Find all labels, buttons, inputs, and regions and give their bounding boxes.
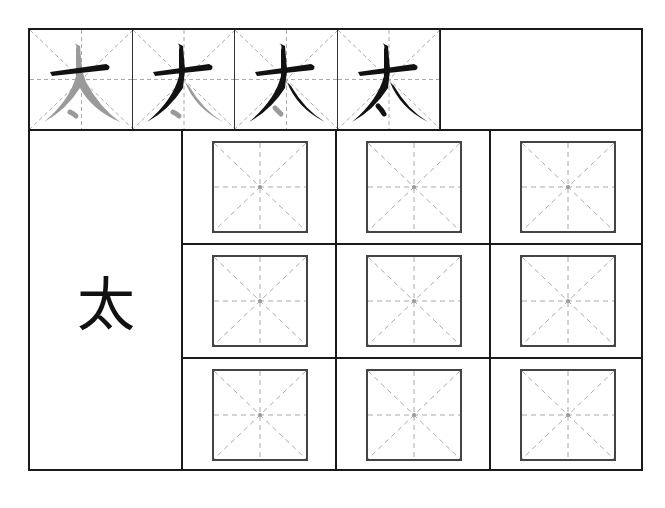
practice-cell[interactable]	[366, 369, 462, 461]
stroke-step-3	[235, 30, 338, 129]
stroke-step-3-glyph	[235, 30, 338, 129]
mi-grid-guide-icon	[214, 143, 306, 231]
practice-cell[interactable]	[366, 141, 462, 233]
mi-grid-guide-icon	[368, 143, 460, 231]
practice-cell[interactable]	[366, 255, 462, 347]
divider-col-1	[335, 130, 337, 471]
practice-cell[interactable]	[520, 369, 616, 461]
model-character: 太	[30, 245, 182, 355]
stroke-step-1-glyph	[30, 30, 133, 129]
practice-cell[interactable]	[212, 141, 308, 233]
practice-cell[interactable]	[212, 255, 308, 347]
mi-grid-guide-icon	[522, 371, 614, 459]
mi-grid-guide-icon	[522, 143, 614, 231]
divider-row-2	[182, 357, 643, 359]
divider-col-2	[489, 130, 491, 471]
practice-cell[interactable]	[520, 141, 616, 233]
stroke-step-2	[133, 30, 235, 129]
stroke-strip-blank-area	[441, 30, 641, 129]
stroke-step-4	[338, 30, 440, 129]
mi-grid-guide-icon	[368, 371, 460, 459]
mi-grid-guide-icon	[214, 371, 306, 459]
stroke-step-2-glyph	[133, 30, 235, 129]
mi-grid-guide-icon	[522, 257, 614, 345]
practice-cell[interactable]	[520, 255, 616, 347]
mi-grid-guide-icon	[214, 257, 306, 345]
divider-row-1	[182, 243, 643, 245]
stroke-step-4-glyph	[338, 30, 440, 129]
mi-grid-guide-icon	[368, 257, 460, 345]
practice-cell[interactable]	[212, 369, 308, 461]
stroke-step-1	[30, 30, 133, 129]
